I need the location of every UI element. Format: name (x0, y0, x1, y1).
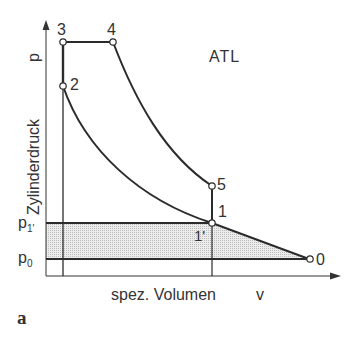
point-1-prime-label: 1' (194, 227, 205, 244)
process-1-2 (63, 86, 212, 223)
x-axis-symbol: v (256, 286, 264, 303)
point-4-marker (110, 39, 116, 45)
point-5-marker (209, 183, 215, 189)
x-axis-label: spez. Volumen (111, 286, 216, 303)
point-0-marker (307, 256, 313, 262)
point-5-label: 5 (217, 176, 226, 193)
diagram-title: ATL (209, 48, 240, 65)
y-tick-p0: p0 (18, 249, 33, 269)
point-2-label: 2 (70, 76, 79, 93)
point-3-marker (60, 39, 66, 45)
point-3-label: 3 (57, 21, 66, 38)
point-1-marker (209, 220, 215, 226)
y-axis-arrow-icon (43, 20, 50, 30)
point-1-label: 1 (218, 203, 227, 220)
point-2-marker (60, 83, 66, 89)
y-axis-symbol: p (25, 53, 42, 62)
point-4-label: 4 (107, 21, 116, 38)
shaded-work-area (46, 223, 309, 259)
point-0-label: 0 (316, 251, 325, 268)
panel-label: a (17, 307, 27, 328)
process-4-5 (113, 42, 212, 186)
y-tick-p1-prime: p1' (18, 214, 34, 234)
y-axis-label: Zylinderdruck (25, 118, 42, 215)
x-axis-arrow-icon (330, 273, 341, 280)
atl-pv-diagram: 3 4 2 5 1 1' 0 ATL Zylinderdruck p p1' p… (0, 0, 354, 352)
